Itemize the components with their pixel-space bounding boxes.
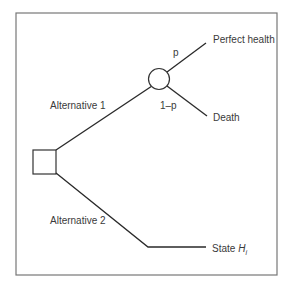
outcome-state: State Hi (212, 243, 247, 259)
prob-1-minus-p-label: 1–p (160, 100, 177, 112)
alternative-1-label: Alternative 1 (50, 100, 106, 112)
frame (16, 13, 277, 275)
decision-node (33, 150, 56, 174)
outcome-death: Death (213, 112, 240, 124)
alternative-2-label: Alternative 2 (50, 215, 106, 227)
prob-p-label: p (173, 47, 179, 59)
alternative-2-branch (56, 173, 206, 247)
state-sub: i (245, 249, 247, 256)
state-prefix: State (212, 243, 238, 254)
outcome-perfect-health: Perfect health (213, 34, 275, 46)
alternative-1-branch (56, 86, 152, 150)
chance-node (149, 69, 170, 90)
